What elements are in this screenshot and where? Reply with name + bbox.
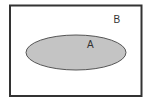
subset-ellipse (26, 35, 126, 70)
subset-label: A (87, 39, 94, 50)
universal-set-label: B (114, 14, 121, 25)
venn-diagram: A B (0, 0, 146, 101)
